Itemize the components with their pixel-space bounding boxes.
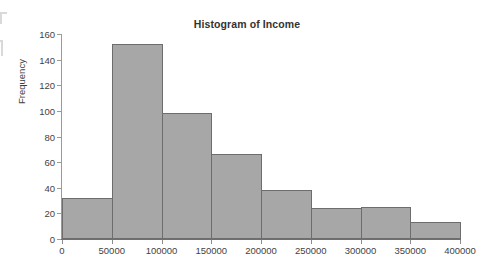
histogram-bar [62,198,113,239]
histogram-bar [361,207,412,239]
y-tick-mark [57,213,61,214]
x-tick-mark [62,240,63,244]
x-tick-mark [410,240,411,244]
x-tick-label: 300000 [345,245,377,256]
x-tick-label: 0 [59,245,64,256]
y-tick-label: 20 [44,208,55,219]
y-tick-label: 120 [39,80,55,91]
chart-title: Histogram of Income [0,18,494,30]
x-tick-label: 150000 [195,245,227,256]
y-tick-label: 80 [44,131,55,142]
y-tick-label: 40 [44,182,55,193]
x-tick-label: 350000 [394,245,426,256]
y-tick-mark [57,188,61,189]
y-tick-label: 60 [44,157,55,168]
x-tick-mark [211,240,212,244]
x-tick-mark [162,240,163,244]
y-tick-label: 160 [39,29,55,40]
histogram-bar [112,44,163,239]
y-tick-mark [57,162,61,163]
y-tick-label: 0 [50,234,55,245]
y-tick-mark [57,111,61,112]
y-tick-mark [57,85,61,86]
x-tick-label: 200000 [245,245,277,256]
x-tick-mark [261,240,262,244]
x-tick-label: 400000 [444,245,476,256]
x-tick-mark [112,240,113,244]
x-tick-mark [361,240,362,244]
y-tick-mark [57,34,61,35]
histogram-bar [410,222,461,239]
y-tick-label: 100 [39,105,55,116]
plot-area: 020406080100120140160 050000100000150000… [62,34,460,239]
y-tick-mark [57,137,61,138]
histogram-screenshot: Histogram of Income Frequency 0204060801… [0,0,494,270]
histogram-bar [211,154,262,239]
x-tick-label: 100000 [146,245,178,256]
x-tick-label: 250000 [295,245,327,256]
y-axis-label: Frequency [16,59,27,104]
histogram-bar [261,190,312,239]
y-tick-mark [57,60,61,61]
histogram-bar [162,113,213,239]
x-tick-mark [311,240,312,244]
scan-artifact [1,42,3,56]
histogram-bar [311,208,362,239]
y-tick-mark [57,239,61,240]
y-tick-label: 140 [39,54,55,65]
x-tick-mark [460,240,461,244]
x-tick-label: 50000 [99,245,125,256]
